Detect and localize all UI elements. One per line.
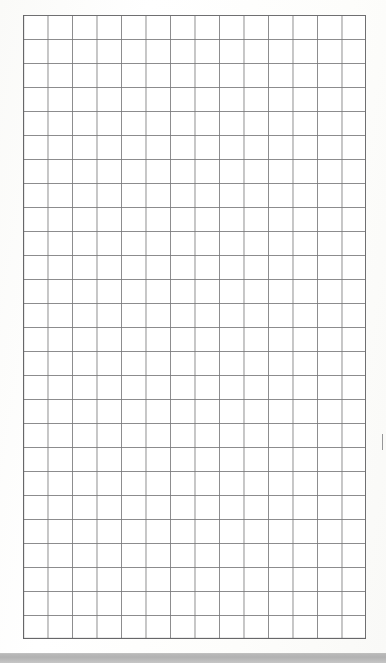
graph-paper-grid[interactable] [23,15,366,639]
scan-edge-band [0,654,386,663]
page-canvas [0,0,386,663]
stray-pencil-mark [382,434,383,450]
